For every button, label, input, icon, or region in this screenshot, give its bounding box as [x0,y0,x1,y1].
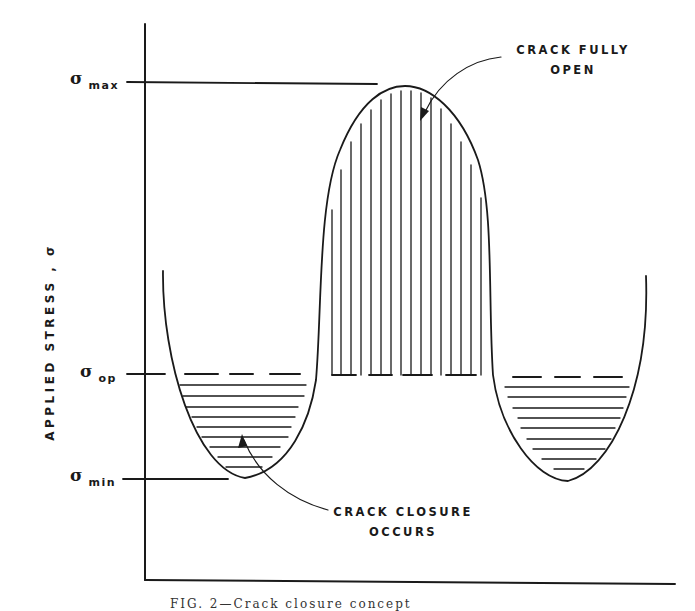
crack-closure-annotation: CRACK CLOSURE OCCURS [328,502,478,542]
sigma-op-label: σop [80,361,117,381]
min-subscript: min [89,476,117,489]
crack-open-annotation: CRACK FULLY OPEN [508,40,638,80]
sigma-symbol: σ [70,465,83,485]
sigma-symbol: σ [70,68,83,88]
sigma-symbol: σ [80,361,93,381]
op-subscript: op [99,372,117,385]
arrowhead-icon [238,434,247,448]
stress-cycle-curve [163,86,646,481]
closure-hatching-left [180,385,306,467]
figure-caption: FIG. 2—Crack closure concept [170,597,412,611]
sigma-max-label: σmax [70,68,119,88]
open-hatching-peak [332,91,481,375]
sigma-min-label: σmin [70,465,116,485]
annotation-line: OCCURS [328,522,478,542]
max-subscript: max [89,79,119,92]
sigma-max-line [127,82,377,84]
annotation-line: OPEN [508,60,638,80]
x-axis [145,580,675,584]
closure-hatching-right [505,387,629,469]
arrowhead-icon [420,107,429,121]
y-axis-label: APPLIED STRESS , σ [43,243,57,441]
annotation-line: CRACK CLOSURE [328,502,478,522]
annotation-line: CRACK FULLY [508,40,638,60]
open-leader-line [425,57,501,112]
